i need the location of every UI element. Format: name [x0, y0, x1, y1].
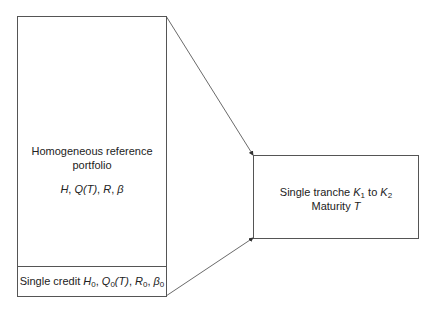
tranche-line2: Maturity T: [253, 199, 419, 213]
portfolio-title-line2: portfolio: [17, 158, 167, 172]
single-credit-label: Single credit H0, Q0(T), R0, β0: [17, 274, 167, 288]
portfolio-title: Homogeneous reference portfolio: [17, 144, 167, 172]
tranche-line1: Single tranche K1 to K2: [253, 185, 419, 199]
portfolio-box: [17, 16, 167, 267]
portfolio-title-line1: Homogeneous reference: [17, 144, 167, 158]
tranche-label: Single tranche K1 to K2 Maturity T: [253, 185, 419, 213]
top-arrow: [166, 16, 253, 155]
portfolio-params: H, Q(T), R, β: [17, 182, 167, 196]
bottom-arrow: [166, 238, 253, 296]
